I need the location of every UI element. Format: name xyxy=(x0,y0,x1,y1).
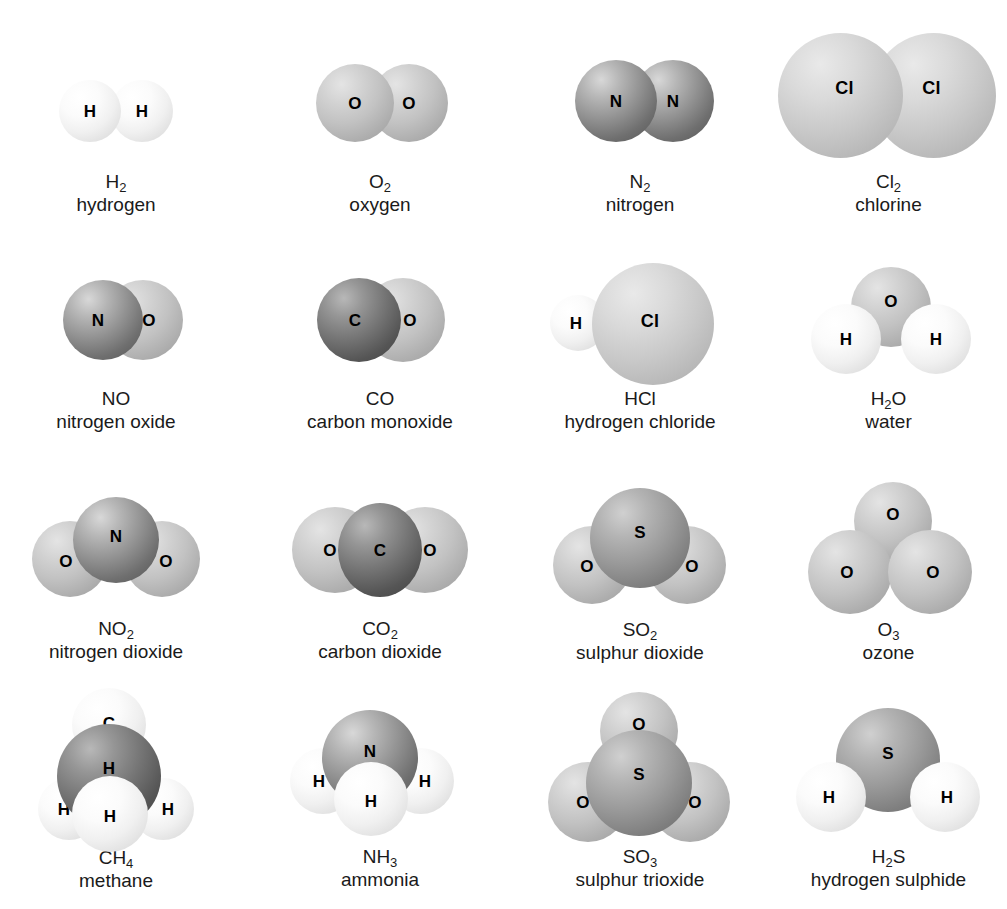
molecule-caption-hcl: HCl hydrogen chloride xyxy=(520,387,760,433)
atom-o: O xyxy=(888,530,972,614)
atom-o: O xyxy=(316,64,394,142)
molecule-formula: NO xyxy=(0,387,232,410)
molecule-cell-so3: O O O S SO3 sulphur trioxide xyxy=(520,690,760,900)
molecule-name: sulphur trioxide xyxy=(520,868,760,891)
molecule-cell-h2o: O H H H2O water xyxy=(770,262,1007,462)
atom-h: H xyxy=(72,776,148,852)
molecule-cell-co: C O CO carbon monoxide xyxy=(260,262,500,462)
molecule-model-co2: O O C xyxy=(260,485,500,617)
molecule-cell-h2: H H H2 hydrogen xyxy=(0,40,232,240)
atom-s: S xyxy=(586,730,692,836)
molecule-name: methane xyxy=(0,869,232,892)
atom-h: H xyxy=(811,304,881,374)
molecule-caption-co: CO carbon monoxide xyxy=(260,387,500,433)
molecule-model-h2: H H xyxy=(0,40,232,170)
molecule-cell-no: N O NO nitrogen oxide xyxy=(0,262,232,462)
molecule-formula: NO2 xyxy=(0,617,232,640)
molecule-caption-so2: SO2 sulphur dioxide xyxy=(520,618,760,664)
atom-c: C xyxy=(317,278,401,362)
molecule-model-so3: O O O S xyxy=(520,690,760,845)
molecule-model-no2: O O N xyxy=(0,485,232,617)
molecule-formula: HCl xyxy=(520,387,760,410)
atom-h: H xyxy=(59,80,121,142)
molecule-name: hydrogen xyxy=(0,193,232,216)
atom-o: O xyxy=(808,530,892,614)
molecule-caption-nh3: NH3 ammonia xyxy=(260,845,500,891)
molecule-caption-cl2: Cl2 chlorine xyxy=(770,170,1007,216)
molecule-caption-o3: O3 ozone xyxy=(770,618,1007,664)
molecule-model-cl2: Cl Cl xyxy=(770,20,1007,170)
molecule-cell-ch4: H H C H H CH4 methane xyxy=(0,686,232,896)
molecule-name: carbon monoxide xyxy=(260,410,500,433)
molecule-model-nh3: H H N H xyxy=(260,700,500,845)
molecule-name: ammonia xyxy=(260,868,500,891)
molecule-model-co: C O xyxy=(260,262,500,387)
molecule-cell-o2: O O O2 oxygen xyxy=(260,40,500,240)
molecule-name: oxygen xyxy=(260,193,500,216)
atom-cl: Cl xyxy=(592,263,714,385)
molecule-model-o3: O O O xyxy=(770,478,1007,618)
molecule-caption-no2: NO2 nitrogen dioxide xyxy=(0,617,232,663)
atom-h: H xyxy=(334,762,408,836)
molecule-cell-no2: O O N NO2 nitrogen dioxide xyxy=(0,485,232,685)
molecule-name: water xyxy=(770,410,1007,433)
molecule-caption-h2o: H2O water xyxy=(770,387,1007,433)
molecule-name: hydrogen chloride xyxy=(520,410,760,433)
molecule-formula: N2 xyxy=(520,170,760,193)
atom-h: H xyxy=(901,304,971,374)
molecule-name: chlorine xyxy=(770,193,1007,216)
atom-c: C xyxy=(338,503,422,597)
molecule-formula: H2 xyxy=(0,170,232,193)
molecule-caption-co2: CO2 carbon dioxide xyxy=(260,617,500,663)
molecule-name: sulphur dioxide xyxy=(520,641,760,664)
molecule-model-no: N O xyxy=(0,262,232,387)
molecule-formula: CO xyxy=(260,387,500,410)
molecule-cell-hcl: H Cl HCl hydrogen chloride xyxy=(520,255,760,465)
molecule-cell-n2: N N N2 nitrogen xyxy=(520,40,760,240)
atom-n: N xyxy=(63,280,143,360)
molecule-model-h2o: O H H xyxy=(770,262,1007,387)
molecule-name: nitrogen xyxy=(520,193,760,216)
molecule-model-ch4: H H C H H xyxy=(0,686,232,846)
molecule-model-h2s: S H H xyxy=(770,700,1007,845)
atom-n: N xyxy=(575,60,657,142)
molecule-model-so2: O O S xyxy=(520,478,760,618)
molecule-name: nitrogen oxide xyxy=(0,410,232,433)
molecule-name: hydrogen sulphide xyxy=(770,868,1007,891)
molecule-name: ozone xyxy=(770,641,1007,664)
molecule-formula: CO2 xyxy=(260,617,500,640)
molecule-formula: H2O xyxy=(770,387,1007,410)
molecule-model-o2: O O xyxy=(260,40,500,170)
molecule-caption-ch4: CH4 methane xyxy=(0,846,232,892)
molecule-caption-h2s: H2S hydrogen sulphide xyxy=(770,845,1007,891)
atom-h: H xyxy=(796,762,866,832)
molecule-caption-n2: N2 nitrogen xyxy=(520,170,760,216)
atom-n: N xyxy=(73,497,159,583)
molecule-cell-cl2: Cl Cl Cl2 chlorine xyxy=(770,20,1007,240)
molecule-cell-co2: O O C CO2 carbon dioxide xyxy=(260,485,500,685)
molecule-name: carbon dioxide xyxy=(260,640,500,663)
molecule-grid: H H H2 hydrogen O O O2 oxygen N N N2 nit… xyxy=(0,0,1007,909)
molecule-caption-no: NO nitrogen oxide xyxy=(0,387,232,433)
molecule-formula: SO3 xyxy=(520,845,760,868)
atom-s: S xyxy=(590,488,690,588)
molecule-formula: SO2 xyxy=(520,618,760,641)
molecule-caption-o2: O2 oxygen xyxy=(260,170,500,216)
molecule-caption-h2: H2 hydrogen xyxy=(0,170,232,216)
molecule-cell-o3: O O O O3 ozone xyxy=(770,478,1007,685)
molecule-formula: NH3 xyxy=(260,845,500,868)
molecule-name: nitrogen dioxide xyxy=(0,640,232,663)
atom-cl: Cl xyxy=(778,33,903,158)
molecule-model-hcl: H Cl xyxy=(520,255,760,387)
molecule-cell-nh3: H H N H NH3 ammonia xyxy=(260,700,500,900)
molecule-caption-so3: SO3 sulphur trioxide xyxy=(520,845,760,891)
molecule-formula: Cl2 xyxy=(770,170,1007,193)
molecule-formula: O3 xyxy=(770,618,1007,641)
molecule-formula: O2 xyxy=(260,170,500,193)
molecule-model-n2: N N xyxy=(520,40,760,170)
molecule-cell-h2s: S H H H2S hydrogen sulphide xyxy=(770,700,1007,900)
molecule-formula: H2S xyxy=(770,845,1007,868)
atom-h: H xyxy=(910,762,980,832)
molecule-cell-so2: O O S SO2 sulphur dioxide xyxy=(520,478,760,685)
